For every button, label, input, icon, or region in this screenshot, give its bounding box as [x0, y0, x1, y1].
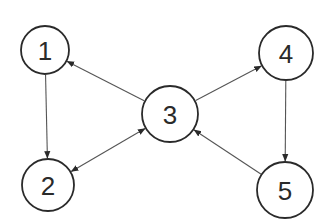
edge-2-to-3 [71, 129, 145, 172]
edge-5-to-3 [194, 130, 261, 174]
graph-diagram: 12345 [0, 0, 331, 223]
edge-4-to-5 [285, 81, 286, 161]
node-2: 2 [22, 159, 74, 211]
node-label: 3 [163, 100, 177, 130]
node-3: 3 [142, 86, 198, 142]
node-label: 5 [278, 176, 292, 206]
edge-1-to-2 [46, 75, 48, 158]
node-4: 4 [259, 26, 313, 80]
edge-3-to-4 [196, 66, 262, 100]
node-1: 1 [21, 26, 69, 74]
edge-3-to-1 [67, 61, 144, 100]
node-5: 5 [257, 162, 313, 218]
node-label: 4 [279, 39, 293, 69]
node-label: 1 [38, 36, 52, 66]
nodes-group: 12345 [21, 26, 313, 218]
node-label: 2 [41, 171, 55, 201]
